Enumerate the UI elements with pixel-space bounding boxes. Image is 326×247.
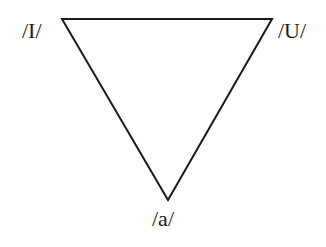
vertex-label-a: /a/ — [152, 208, 174, 230]
triangle-outline — [62, 19, 272, 200]
vertex-label-i: /I/ — [22, 20, 42, 42]
vertex-label-u: /U/ — [278, 20, 306, 42]
